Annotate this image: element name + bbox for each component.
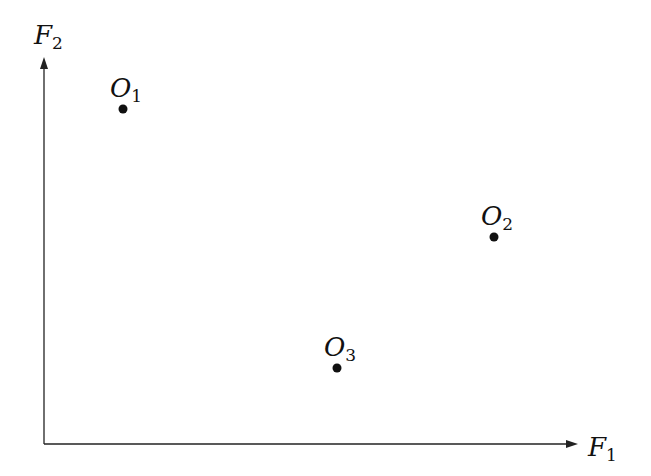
point-label-o3: O3 (324, 334, 356, 364)
point-label-o2: O2 (481, 203, 513, 233)
point-o2 (490, 233, 499, 242)
point-label-o1: O1 (110, 75, 142, 105)
point-o3 (333, 364, 342, 373)
point-o1 (119, 105, 128, 114)
x-axis-label: F1 (588, 434, 617, 464)
diagram-canvas (0, 0, 651, 476)
y-axis-label: F2 (34, 22, 63, 52)
y-axis-arrow-icon (40, 57, 48, 69)
x-axis-arrow-icon (566, 440, 578, 448)
